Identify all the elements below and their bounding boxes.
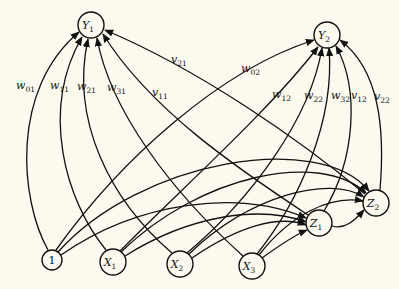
edge-Z1-to-Y1 <box>103 34 308 215</box>
node-Z1: Z1 <box>306 210 332 236</box>
label-v21: v21 <box>171 53 187 68</box>
edge-X1-to-Y1 <box>60 37 106 250</box>
neural-network-diagram: w01 w11 w21 w31 v11 v21 w02 w12 w22 w32 … <box>0 0 399 289</box>
node-Z2: Z2 <box>363 190 389 216</box>
node-X1: X1 <box>100 249 126 275</box>
edge-Z1-to-Y2 <box>324 46 351 211</box>
edge-1-to-Z1 <box>61 203 306 255</box>
label-w22: w22 <box>304 89 323 104</box>
node-X2: X2 <box>167 251 193 277</box>
node-Y2: Y2 <box>314 22 340 48</box>
label-v22: v22 <box>374 90 390 105</box>
label-w11: w11 <box>50 79 69 94</box>
edge-Z2-to-Y2 <box>340 40 382 190</box>
edge-labels: w01 w11 w21 w31 v11 v21 w02 w12 w22 w32 … <box>16 53 390 105</box>
node-bias: 1 <box>42 250 62 270</box>
label-v12: v12 <box>351 89 367 104</box>
label-v11: v11 <box>152 86 168 101</box>
label-w31: w31 <box>107 81 126 96</box>
edge-X1-to-Y2 <box>120 47 318 251</box>
edge-1-to-Y1 <box>27 32 79 250</box>
label-w21: w21 <box>77 80 96 95</box>
nodes-layer: 1 X1 X2 X3 Z1 Z2 Y1 Y2 <box>42 12 389 279</box>
edge-Z2-to-Y1 <box>105 30 365 194</box>
node-X3: X3 <box>239 253 265 279</box>
svg-text:1: 1 <box>49 254 56 267</box>
node-Y1: Y1 <box>78 12 104 38</box>
label-w32: w32 <box>331 89 350 104</box>
label-w01: w01 <box>16 79 35 94</box>
edge-Z1-to-Z2 <box>332 210 364 227</box>
